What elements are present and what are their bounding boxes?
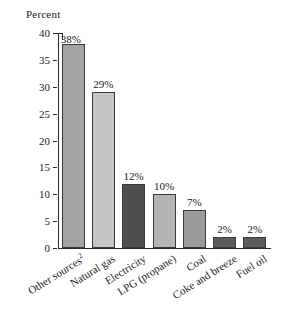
y-axis-title: Percent xyxy=(26,8,60,20)
y-axis-tick-label: 25 xyxy=(8,108,50,119)
y-axis-tick xyxy=(53,194,57,195)
y-axis-tick-label: 40 xyxy=(8,28,50,39)
bar[interactable] xyxy=(92,92,115,248)
bar-value-label: 38% xyxy=(61,34,102,45)
y-axis-tick-label: 30 xyxy=(8,81,50,92)
y-axis-tick-label: 0 xyxy=(8,243,50,254)
y-axis-tick xyxy=(53,221,57,222)
bar-value-label: 29% xyxy=(83,79,124,90)
y-axis-tick-label: 5 xyxy=(8,216,50,227)
y-axis-tick xyxy=(53,87,57,88)
bar[interactable] xyxy=(213,237,236,248)
value-leader-line xyxy=(53,33,62,34)
x-axis-category-label[interactable]: Fuel oil xyxy=(234,253,269,280)
value-leader-drop xyxy=(62,33,63,40)
y-axis-tick xyxy=(53,248,57,249)
y-axis-tick xyxy=(53,114,57,115)
bar[interactable] xyxy=(122,184,145,249)
y-axis-tick-label: 15 xyxy=(8,162,50,173)
y-axis-tick xyxy=(53,141,57,142)
bar-chart: Percent 0510152025303540 38%29%12%10%7%2… xyxy=(0,0,284,314)
category-label-text: Fuel oil xyxy=(234,252,269,280)
y-axis-tick xyxy=(53,167,57,168)
bar-value-label: 10% xyxy=(144,181,185,192)
bars-container: 38%29%12%10%7%2%2% xyxy=(58,33,270,248)
bar-value-label: 2% xyxy=(234,224,275,235)
y-axis-tick-label: 20 xyxy=(8,135,50,146)
y-axis-tick-label: 35 xyxy=(8,54,50,65)
bar-value-label: 7% xyxy=(174,197,215,208)
bar-value-label: 12% xyxy=(113,171,154,182)
y-axis-tick xyxy=(53,60,57,61)
y-axis-tick-label: 10 xyxy=(8,189,50,200)
bar[interactable] xyxy=(62,44,85,248)
bar[interactable] xyxy=(183,210,206,248)
x-axis-line xyxy=(58,248,271,249)
bar[interactable] xyxy=(243,237,266,248)
bar[interactable] xyxy=(153,194,176,248)
